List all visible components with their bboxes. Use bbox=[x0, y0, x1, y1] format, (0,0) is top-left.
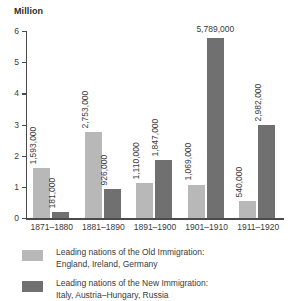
legend-label-new-line2: Italy, Austria–Hungary, Russia bbox=[56, 290, 287, 301]
y-tick-label: 2 bbox=[14, 151, 19, 161]
y-tick-label: 3 bbox=[14, 120, 19, 130]
bar-value-label: 1,110,000 bbox=[132, 142, 141, 179]
bar-value-label: 2,753,000 bbox=[80, 90, 89, 128]
plot-area: 0123456 1,593,000181,0002,753,000926,000… bbox=[26, 31, 284, 218]
x-axis-line bbox=[26, 218, 284, 220]
y-tick-label: 0 bbox=[14, 213, 19, 223]
y-tick-label: 6 bbox=[14, 26, 19, 36]
legend-swatch-icon-new bbox=[22, 281, 43, 292]
bar-group: 1,110,0001,847,000 bbox=[132, 31, 176, 218]
bar-group: 1,593,000181,000 bbox=[29, 31, 73, 218]
bar-value-label: 2,982,000 bbox=[254, 83, 263, 121]
y-tick-label: 4 bbox=[14, 88, 19, 98]
x-category-label: 1901–1910 bbox=[181, 222, 233, 232]
y-tick-mark bbox=[22, 93, 27, 94]
bar-value-label: 5,789,000 bbox=[196, 25, 234, 34]
legend-label-new-line1: Leading nations of the New Immigration: bbox=[56, 278, 287, 290]
bar bbox=[207, 38, 224, 218]
bar bbox=[136, 183, 153, 218]
legend-label-old-line1: Leading nations of the Old Immigration: bbox=[56, 247, 287, 259]
bar-group: 540,0002,982,000 bbox=[235, 31, 279, 218]
y-tick-label: 5 bbox=[14, 57, 19, 67]
bar-value-label: 1,847,000 bbox=[151, 119, 160, 157]
bar bbox=[104, 189, 121, 218]
x-category-label: 1891–1900 bbox=[129, 222, 181, 232]
y-tick-mark bbox=[22, 31, 27, 32]
x-category-label: 1871–1880 bbox=[26, 222, 78, 232]
immigration-bar-chart: Million 0123456 1,593,000181,0002,753,00… bbox=[0, 0, 292, 301]
legend-item-new-immigration: Leading nations of the New Immigration: … bbox=[22, 278, 287, 301]
y-tick-label: 1 bbox=[14, 182, 19, 192]
legend-swatch-icon-old bbox=[22, 250, 43, 261]
bar-value-label: 181,000 bbox=[48, 178, 57, 209]
bar-group: 2,753,000926,000 bbox=[81, 31, 125, 218]
y-tick-mark bbox=[22, 125, 27, 126]
bar bbox=[52, 212, 69, 218]
y-tick-mark bbox=[22, 156, 27, 157]
bar bbox=[188, 185, 205, 218]
bar bbox=[155, 160, 172, 218]
x-category-label: 1881–1890 bbox=[78, 222, 130, 232]
y-tick-mark bbox=[22, 187, 27, 188]
x-category-label: 1911–1920 bbox=[232, 222, 284, 232]
bar-value-label: 926,000 bbox=[99, 154, 108, 185]
bar-value-label: 1,593,000 bbox=[29, 127, 38, 165]
legend-item-old-immigration: Leading nations of the Old Immigration: … bbox=[22, 247, 287, 271]
bar bbox=[258, 125, 275, 218]
bar bbox=[239, 201, 256, 218]
legend-label-old-line2: England, Ireland, Germany bbox=[56, 259, 287, 271]
y-axis-title: Million bbox=[14, 6, 43, 16]
y-tick-mark bbox=[22, 62, 27, 63]
bar-group: 1,069,0005,789,000 bbox=[184, 31, 228, 218]
bar-value-label: 1,069,000 bbox=[183, 143, 192, 181]
chart-legend: Leading nations of the Old Immigration: … bbox=[22, 247, 287, 301]
y-tick-mark bbox=[22, 218, 27, 219]
bar-value-label: 540,000 bbox=[235, 166, 244, 197]
